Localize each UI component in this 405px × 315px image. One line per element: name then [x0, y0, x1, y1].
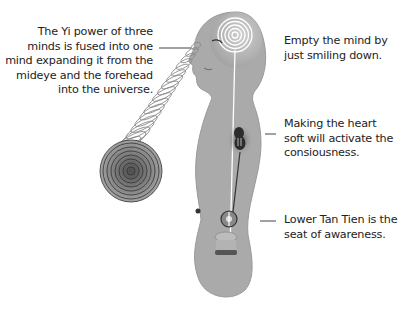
- label-line: just smiling down.: [284, 49, 388, 64]
- label-line: mideye and the forehead: [3, 69, 153, 84]
- label-line: Lower Tan Tien is the: [284, 213, 397, 228]
- navel-dot-icon: [196, 209, 201, 214]
- label-line: Empty the mind by: [284, 34, 388, 49]
- label-line: soft will activate the: [284, 132, 393, 147]
- label-lower-tan-tien: Lower Tan Tien is the seat of awareness.: [284, 213, 397, 242]
- label-heart: Making the heart soft will activate the …: [284, 117, 393, 161]
- universe-vortex-icon: [100, 140, 162, 202]
- label-yi-power: The Yi power of three minds is fused int…: [3, 25, 153, 98]
- label-line: Making the heart: [284, 117, 393, 132]
- label-line: into the universe.: [3, 83, 153, 98]
- label-empty-mind: Empty the mind by just smiling down.: [284, 34, 388, 63]
- label-line: minds is fused into one: [3, 40, 153, 55]
- label-line: The Yi power of three: [3, 25, 153, 40]
- label-line: consiousness.: [284, 146, 393, 161]
- label-line: mind expanding it from the: [3, 54, 153, 69]
- label-line: seat of awareness.: [284, 228, 397, 243]
